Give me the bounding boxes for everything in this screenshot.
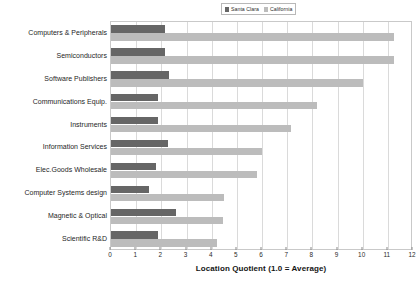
bar-santa-clara	[111, 25, 165, 32]
bar-california	[111, 171, 257, 178]
category-label: Instruments	[0, 113, 107, 136]
bar-santa-clara	[111, 163, 156, 170]
bar-california	[111, 239, 217, 246]
x-tick-label: 0	[108, 250, 112, 259]
x-axis-ticks: 0123456789101112	[110, 250, 412, 262]
bar-santa-clara	[111, 209, 176, 216]
bar-santa-clara	[111, 186, 149, 193]
x-tick-label: 1	[133, 250, 137, 259]
bar-california	[111, 148, 262, 155]
x-tick-label: 7	[284, 250, 288, 259]
x-axis-title: Location Quotient (1.0 = Average)	[110, 263, 412, 274]
bar-row	[111, 205, 411, 228]
bar-row	[111, 159, 411, 182]
bar-row	[111, 45, 411, 68]
x-tick-label: 5	[234, 250, 238, 259]
bar-california	[111, 194, 224, 201]
category-label: Elec.Goods Wholesale	[0, 158, 107, 181]
chart-legend: Santa Clara California	[221, 3, 296, 15]
category-label: Scientific R&D	[0, 227, 107, 250]
x-tick-label: 11	[384, 250, 391, 259]
bar-row	[111, 114, 411, 137]
bar-row	[111, 137, 411, 160]
category-label: Communications Equip.	[0, 90, 107, 113]
category-label: Computer Systems design	[0, 181, 107, 204]
x-tick-label: 3	[184, 250, 188, 259]
category-label: Computers & Peripherals	[0, 21, 107, 44]
bar-california	[111, 125, 291, 132]
bar-row	[111, 182, 411, 205]
x-tick-label: 8	[310, 250, 314, 259]
bar-row	[111, 91, 411, 114]
bar-chart: Santa Clara California Computers & Perip…	[0, 0, 419, 284]
bar-santa-clara	[111, 71, 169, 78]
legend-swatch-california	[264, 7, 268, 12]
bar-california	[111, 217, 223, 224]
bar-santa-clara	[111, 231, 158, 238]
bar-rows	[111, 22, 411, 249]
category-label: Information Services	[0, 136, 107, 159]
bar-row	[111, 68, 411, 91]
legend-swatch-santa-clara	[225, 7, 229, 12]
legend-label-santa-clara: Santa Clara	[231, 6, 259, 12]
plot-area	[110, 21, 412, 250]
bar-california	[111, 56, 394, 63]
x-tick-label: 2	[159, 250, 163, 259]
legend-entry-santa-clara: Santa Clara	[225, 6, 259, 12]
x-tick-label: 12	[408, 250, 415, 259]
bar-santa-clara	[111, 140, 168, 147]
bar-row	[111, 22, 411, 45]
bar-california	[111, 33, 394, 40]
bar-santa-clara	[111, 94, 158, 101]
bar-santa-clara	[111, 48, 165, 55]
legend-label-california: California	[270, 6, 292, 12]
legend-entry-california: California	[264, 6, 292, 12]
category-label: Software Publishers	[0, 67, 107, 90]
category-label: Magnetic & Optical	[0, 204, 107, 227]
x-tick-label: 10	[358, 250, 365, 259]
x-tick-label: 4	[209, 250, 213, 259]
bar-california	[111, 102, 317, 109]
category-axis-labels: Computers & PeripheralsSemiconductorsSof…	[0, 21, 107, 250]
bar-california	[111, 79, 363, 86]
bar-santa-clara	[111, 117, 158, 124]
category-label: Semiconductors	[0, 44, 107, 67]
x-tick-label: 9	[335, 250, 339, 259]
x-tick-label: 6	[259, 250, 263, 259]
